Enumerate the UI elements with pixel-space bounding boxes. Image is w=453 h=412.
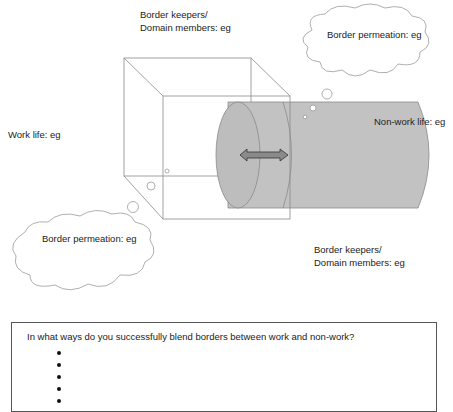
thought-bubble-bottom (13, 169, 169, 290)
non-work-life-label: Non-work life: eg (374, 115, 445, 128)
answer-bullet-list (57, 347, 357, 407)
border-permeation-bottom-label: Border permeation: eg (42, 232, 137, 245)
work-life-label: Work life: eg (8, 128, 61, 141)
answer-bullet[interactable] (57, 395, 357, 407)
answer-bullet[interactable] (57, 347, 357, 359)
question-prompt: In what ways do you successfully blend b… (27, 331, 354, 342)
border-keepers-top-label: Border keepers/ Domain members: eg (140, 8, 231, 34)
answer-bullet[interactable] (57, 359, 357, 371)
border-theory-diagram (0, 0, 453, 320)
answer-bullet[interactable] (57, 383, 357, 395)
answer-bullet[interactable] (57, 371, 357, 383)
question-box: In what ways do you successfully blend b… (11, 322, 437, 412)
label-line: Border keepers/ (140, 8, 231, 21)
label-line: Domain members: eg (314, 256, 405, 269)
thought-bubble-top (303, 4, 429, 119)
border-permeation-top-label: Border permeation: eg (327, 28, 422, 41)
label-line: Domain members: eg (140, 21, 231, 34)
label-line: Border keepers/ (314, 243, 405, 256)
border-keepers-bottom-label: Border keepers/ Domain members: eg (314, 243, 405, 269)
